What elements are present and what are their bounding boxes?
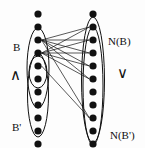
label-right-operator: ∨ [117,66,128,81]
right-vertex-4 [89,62,96,69]
left-vertex-10 [34,140,41,147]
right-vertex-3 [89,49,96,56]
left-vertex-8 [34,114,41,121]
left-vertex-3 [34,49,41,56]
left-vertex-0 [34,10,41,17]
left-vertex-9 [34,127,41,134]
label-set-NB: N(B) [108,36,131,47]
graph-edge [42,27,90,40]
right-vertex-2 [89,36,96,43]
left-vertex-2 [34,36,41,43]
left-vertex-6 [34,88,41,95]
bipartite-graph-figure: B B' N(B) N(B') ∧ ∨ [0,0,145,148]
right-vertex-7 [89,101,96,108]
left-vertex-1 [34,23,41,30]
label-left-operator: ∧ [10,68,21,83]
left-vertex-7 [34,101,41,108]
right-vertex-5 [89,75,96,82]
right-vertex-0 [89,10,96,17]
ellipse-NB-prime [83,27,103,145]
right-vertex-8 [89,114,96,121]
left-vertex-4 [34,62,41,69]
ellipse-inner-left [29,56,47,88]
right-vertex-6 [89,88,96,95]
label-set-B: B [13,42,20,53]
right-vertex-9 [89,127,96,134]
right-vertex-10 [89,140,96,147]
label-set-NB-prime: N(B') [110,130,135,141]
right-vertex-1 [89,23,96,30]
left-vertex-5 [34,75,41,82]
label-set-B-prime: B' [12,122,21,133]
